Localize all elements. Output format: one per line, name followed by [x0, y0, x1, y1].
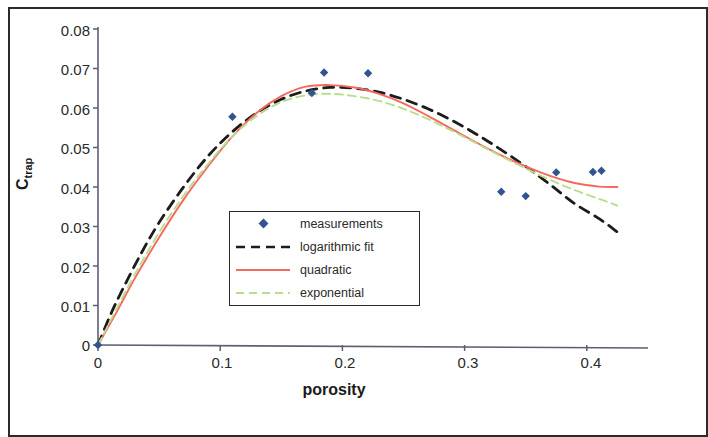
data-point-diamond-icon — [597, 167, 605, 175]
y-tick-label: 0.03 — [42, 219, 90, 236]
legend-marker-solid-line-icon — [232, 263, 294, 277]
y-axis-title-base: C — [14, 178, 31, 190]
y-tick-label: 0 — [42, 337, 90, 354]
legend-label: logarithmic fit — [300, 240, 374, 254]
legend-item-exponential: exponential — [230, 281, 419, 304]
y-tick-label: 0.04 — [42, 180, 90, 197]
y-tick-label: 0.08 — [42, 22, 90, 39]
legend-label: quadratic — [300, 263, 351, 277]
x-tick-label: 0.4 — [567, 354, 615, 371]
legend-label: measurements — [300, 217, 383, 231]
data-point-diamond-icon — [228, 112, 236, 120]
x-tick-label: 0.3 — [444, 354, 492, 371]
y-axis-title-subscript: trap — [22, 158, 34, 179]
data-point-diamond-icon — [320, 68, 328, 76]
legend-item-measurements: measurements — [230, 212, 419, 235]
y-tick-label: 0.07 — [42, 61, 90, 78]
x-axis-line — [98, 345, 648, 348]
y-tick-label: 0.01 — [42, 298, 90, 315]
x-tick-label: 0 — [74, 354, 122, 371]
legend-item-logarithmic-fit: logarithmic fit — [230, 235, 419, 258]
data-point-diamond-icon — [552, 168, 560, 176]
data-point-diamond-icon — [497, 188, 505, 196]
legend-marker-dashed-line-icon — [232, 240, 294, 254]
y-tick-label: 0.02 — [42, 259, 90, 276]
y-axis-title: Ctrap — [14, 70, 34, 190]
data-point-diamond-icon — [589, 168, 597, 176]
legend-label: exponential — [300, 286, 364, 300]
legend-item-quadratic: quadratic — [230, 258, 419, 281]
x-tick-label: 0.2 — [321, 354, 369, 371]
legend-marker-dashed-line-icon — [232, 286, 294, 300]
chart-legend: measurements logarithmic fit quadratic e… — [229, 211, 420, 306]
data-point-diamond-icon — [522, 192, 530, 200]
data-point-diamond-icon — [364, 69, 372, 77]
y-tick-label: 0.05 — [42, 140, 90, 157]
data-point-diamond-icon — [94, 341, 102, 349]
x-axis-title: porosity — [0, 381, 668, 399]
y-tick-label: 0.06 — [42, 101, 90, 118]
x-tick-label: 0.1 — [198, 354, 246, 371]
legend-marker-diamond-icon — [232, 217, 294, 231]
